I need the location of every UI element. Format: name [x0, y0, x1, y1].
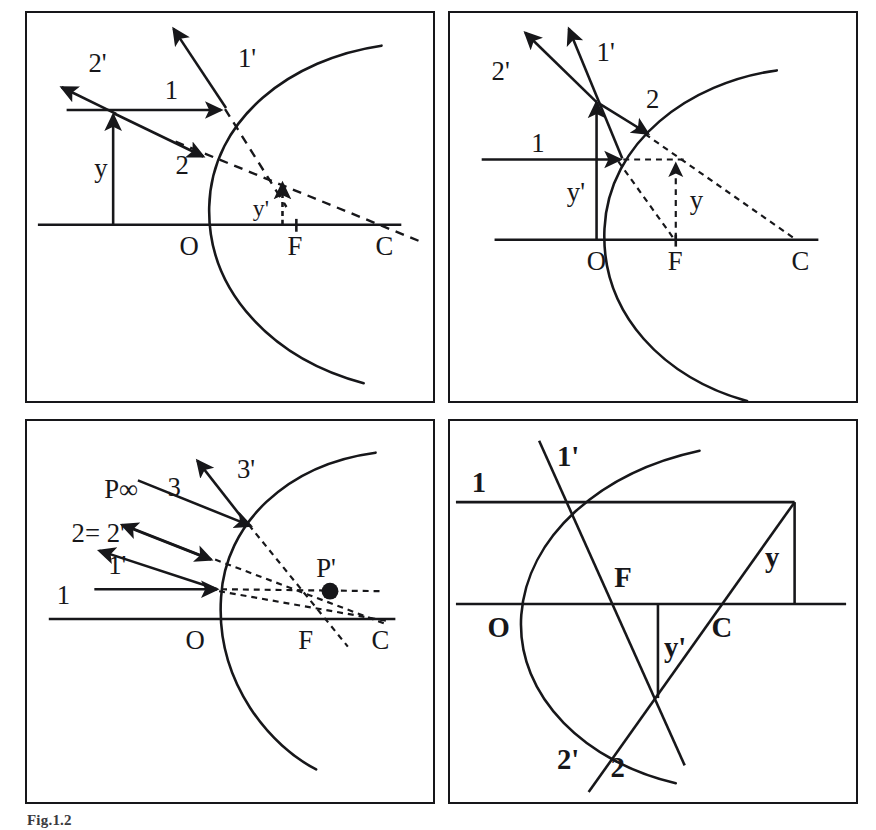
- label-ray-1: 1: [531, 128, 544, 158]
- label-image-height-y-prime: y': [664, 631, 686, 663]
- diagram-panel-top-left: 2' 1' 1 2 y y' O F C: [25, 11, 435, 403]
- reflected-ray-1-prime: [174, 29, 226, 108]
- label-vertex-O: O: [587, 246, 606, 276]
- diagram-panel-top-right: 2' 1' 2 1 y' y O F C: [448, 11, 858, 403]
- label-object-at-infinity: P∞: [104, 474, 138, 504]
- panel-d-canvas: 1' 1 F y O C y' 2' 2: [450, 421, 856, 802]
- virtual-extension-ray-1: [225, 109, 286, 207]
- label-ray-2: 2: [176, 150, 189, 180]
- virtual-extension-ray-2: [215, 560, 385, 624]
- label-vertex-O: O: [185, 625, 204, 655]
- label-object-height-y: y: [765, 541, 780, 573]
- label-ray-3: 3: [168, 472, 181, 502]
- label-ray-2-equals-2-prime: 2= 2': [72, 518, 125, 548]
- label-ray-2-prime: 2': [492, 56, 510, 86]
- label-ray-1: 1: [57, 580, 70, 610]
- label-object-height-y-prime: y': [567, 177, 585, 207]
- label-focus-F: F: [287, 232, 302, 262]
- label-ray-1: 1: [165, 75, 178, 105]
- label-centre-C: C: [376, 232, 394, 262]
- label-ray-1-prime: 1': [108, 550, 126, 580]
- label-vertex-O: O: [488, 611, 510, 643]
- label-ray-2-prime: 2': [88, 48, 106, 78]
- label-ray-2: 2: [646, 84, 659, 114]
- diagram-panel-bottom-right: 1' 1 F y O C y' 2' 2: [448, 419, 858, 804]
- label-ray-3-prime: 3': [237, 454, 255, 484]
- virtual-extension-ray-1: [618, 161, 673, 238]
- incident-ray-3: [138, 480, 251, 526]
- label-object-height-y: y: [94, 153, 108, 183]
- label-ray-1: 1: [472, 466, 486, 498]
- figure-caption: Fig.1.2: [27, 812, 72, 830]
- label-ray-2-prime: 2': [557, 743, 579, 775]
- label-image-height-y-prime: y': [253, 195, 269, 221]
- label-focus-F: F: [668, 246, 683, 276]
- label-ray-2: 2: [610, 751, 624, 783]
- convex-mirror-surface: [521, 451, 700, 784]
- virtual-extension-ray-2: [636, 128, 794, 239]
- label-centre-C: C: [711, 611, 732, 643]
- label-centre-C: C: [792, 246, 810, 276]
- diagram-panel-bottom-left: P∞ 3 3' 2= 2' 1' 1 P' O F C: [25, 419, 435, 804]
- label-centre-C: C: [372, 625, 390, 655]
- label-ray-1-prime: 1': [238, 43, 256, 73]
- reflected-ray-2-prime: [122, 525, 205, 558]
- panel-c-canvas: P∞ 3 3' 2= 2' 1' 1 P' O F C: [27, 421, 433, 802]
- label-vertex-O: O: [179, 232, 198, 262]
- label-ray-1-prime: 1': [597, 37, 615, 67]
- figure-sheet: 2' 1' 1 2 y y' O F C: [0, 0, 876, 830]
- label-image-height-y: y: [690, 185, 704, 215]
- convex-mirror-surface: [604, 70, 776, 401]
- ray-2-prime: [589, 502, 795, 792]
- panel-b-canvas: 2' 1' 2 1 y' y O F C: [450, 13, 856, 401]
- virtual-extension-ray-2: [176, 142, 424, 243]
- label-image-point-P-prime: P': [316, 553, 336, 583]
- panel-a-canvas: 2' 1' 1 2 y y' O F C: [27, 13, 433, 401]
- label-focus-F: F: [614, 561, 632, 593]
- virtual-extension-ray-1-lower: [219, 591, 387, 621]
- image-point-dot: [322, 583, 339, 600]
- virtual-extension-ray-1: [221, 589, 383, 591]
- label-focus-F: F: [298, 625, 313, 655]
- incident-ray-2: [113, 113, 203, 157]
- label-ray-1-prime: 1': [557, 440, 579, 472]
